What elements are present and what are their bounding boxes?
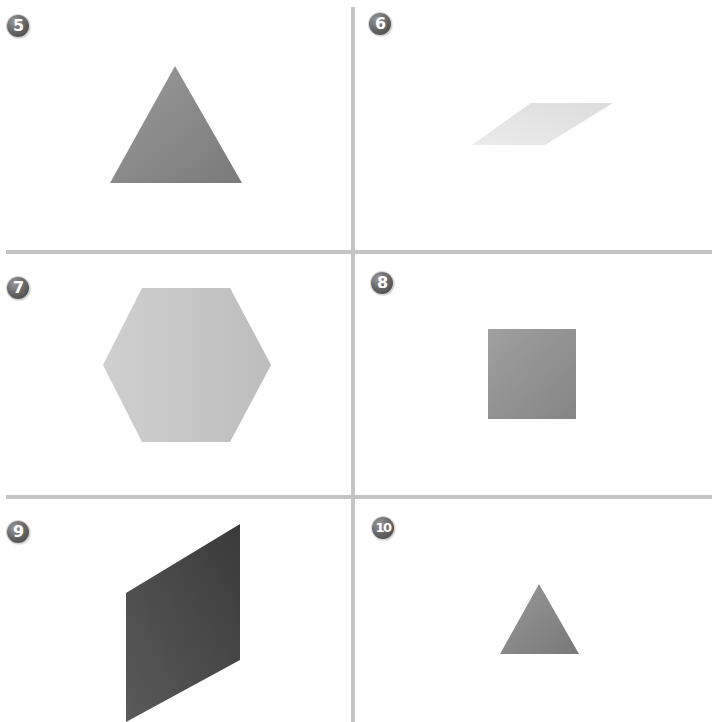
hexagon-shape — [103, 288, 271, 442]
square-shape — [488, 329, 576, 419]
triangle-shape — [500, 584, 579, 654]
parallelogram-shape — [472, 103, 613, 145]
number-badge-8: 8 — [371, 272, 393, 294]
triangle-shape — [110, 66, 242, 183]
number-badge-9: 9 — [7, 521, 29, 543]
shapes-layer — [0, 0, 717, 722]
number-badge-7: 7 — [7, 277, 29, 299]
number-badge-6: 6 — [369, 13, 391, 35]
number-badge-10: 10 — [372, 517, 394, 539]
parallelogram-shape — [126, 524, 240, 722]
number-badge-5: 5 — [7, 15, 29, 37]
